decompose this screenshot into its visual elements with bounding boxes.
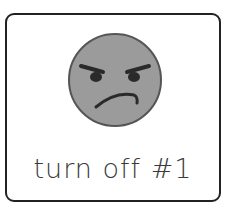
card-label: turn off #1: [7, 153, 219, 184]
turn-off-card-button[interactable]: turn off #1: [5, 13, 221, 202]
angry-face-icon: [67, 31, 163, 129]
